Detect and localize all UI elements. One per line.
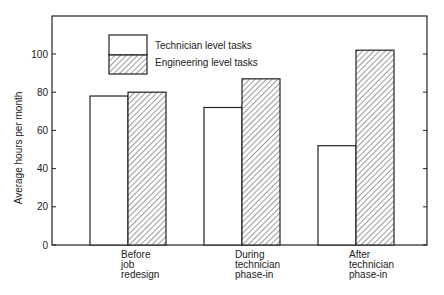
- bar-chart: 020406080100 BeforejobredesignDuringtech…: [0, 0, 444, 295]
- engineering-bar: [128, 92, 166, 245]
- bars: [90, 50, 394, 245]
- chart-svg: 020406080100 BeforejobredesignDuringtech…: [0, 0, 444, 295]
- y-tick-label: 40: [37, 163, 49, 174]
- engineering-bar: [242, 79, 280, 245]
- legend-swatch-technician: [109, 35, 147, 55]
- technician-bar: [204, 107, 242, 245]
- y-axis-label: Average hours per month: [13, 92, 24, 205]
- x-axis-labels: BeforejobredesignDuringtechnicianphase-i…: [120, 249, 394, 280]
- legend-swatch-engineering: [109, 55, 147, 74]
- technician-bar: [318, 146, 356, 245]
- x-category-label: Beforejobredesign: [120, 249, 159, 280]
- x-category-label: Duringtechnicianphase-in: [235, 249, 280, 280]
- legend-label-technician: Technician level tasks: [155, 40, 252, 51]
- technician-bar: [90, 96, 128, 245]
- x-category-label: Aftertechnicianphase-in: [349, 249, 394, 280]
- y-tick-label: 20: [37, 201, 49, 212]
- y-tick-label: 80: [37, 87, 49, 98]
- engineering-bar: [356, 50, 394, 245]
- legend-label-engineering: Engineering level tasks: [155, 57, 258, 68]
- y-tick-label: 60: [37, 125, 49, 136]
- y-tick-label: 0: [42, 240, 48, 251]
- legend: Technician level tasksEngineering level …: [109, 35, 258, 74]
- y-tick-label: 100: [31, 49, 48, 60]
